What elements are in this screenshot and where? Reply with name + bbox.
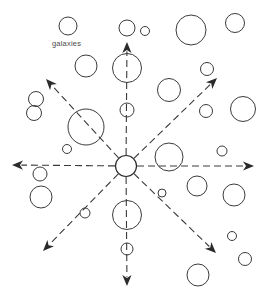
labels-group: galaxies bbox=[52, 39, 81, 48]
ray-down-shaft bbox=[126, 177, 127, 277]
galaxy-circle bbox=[226, 14, 245, 33]
galaxy-circle bbox=[158, 189, 166, 197]
ray-up-left-shaft bbox=[52, 86, 118, 158]
galaxy-circle bbox=[158, 79, 181, 102]
center-galaxy-group bbox=[116, 156, 137, 177]
galaxy-circle bbox=[80, 208, 90, 218]
galaxy-circle bbox=[63, 145, 72, 154]
galaxy-circle bbox=[155, 143, 183, 171]
expanding-universe-diagram: galaxies bbox=[0, 0, 271, 302]
ray-left-shaft bbox=[21, 165, 115, 166]
galaxy-circle bbox=[29, 92, 44, 107]
diagram-canvas: galaxies bbox=[0, 0, 271, 302]
galaxy-circle bbox=[59, 17, 77, 35]
ray-right-arrowhead bbox=[243, 161, 254, 170]
galaxy-circle bbox=[231, 97, 256, 122]
galaxy-circle bbox=[200, 105, 213, 118]
galaxy-circle bbox=[113, 54, 142, 83]
ray-down-right-shaft bbox=[134, 174, 209, 247]
galaxy-circle bbox=[187, 176, 207, 196]
galaxy-circle bbox=[30, 186, 52, 208]
galaxies-label: galaxies bbox=[52, 39, 81, 48]
ray-down-left-shaft bbox=[50, 174, 119, 244]
galaxy-circles-group bbox=[27, 14, 256, 287]
galaxy-circle bbox=[223, 184, 245, 206]
center-galaxy-circle bbox=[116, 156, 137, 177]
galaxy-circle bbox=[68, 109, 104, 145]
galaxy-circle bbox=[217, 146, 227, 156]
galaxy-circle bbox=[176, 15, 206, 45]
galaxy-circle bbox=[141, 27, 150, 36]
galaxy-circle bbox=[228, 232, 237, 241]
galaxy-circle bbox=[75, 55, 97, 77]
galaxy-circle bbox=[239, 253, 252, 266]
galaxy-circle bbox=[33, 167, 47, 181]
galaxy-circle bbox=[119, 20, 135, 36]
ray-up-right-shaft bbox=[134, 84, 210, 158]
galaxy-circle bbox=[187, 264, 209, 286]
galaxy-circle bbox=[27, 106, 42, 121]
galaxy-circle bbox=[201, 63, 214, 76]
